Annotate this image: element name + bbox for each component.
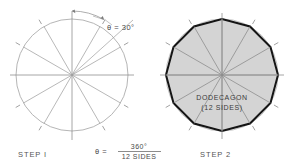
polygon-name-label: DODECAGON bbox=[196, 94, 247, 101]
tick-150deg bbox=[16, 43, 20, 46]
tick-330deg bbox=[124, 105, 128, 108]
vtick-240deg bbox=[189, 126, 192, 130]
radius-300deg bbox=[72, 75, 100, 124]
radius-60deg bbox=[72, 27, 100, 76]
theta-value-label: θ = 30° bbox=[107, 23, 135, 32]
radius-30deg bbox=[72, 47, 121, 75]
radius-210deg bbox=[24, 75, 73, 103]
angle-arrow-start bbox=[72, 10, 75, 14]
tick-300deg bbox=[103, 126, 106, 130]
tick-240deg bbox=[39, 126, 42, 130]
vtick-300deg bbox=[253, 126, 256, 130]
tick-30deg bbox=[124, 43, 128, 46]
vtick-210deg bbox=[166, 105, 170, 108]
vtick-330deg bbox=[274, 105, 278, 108]
step1-group: θ = 30° θ = 360° 12 SIDES STEP I bbox=[10, 10, 161, 160]
figure-canvas: θ = 30° θ = 360° 12 SIDES STEP I bbox=[0, 0, 298, 168]
step2-caption: STEP 2 bbox=[200, 150, 231, 159]
theta-formula: θ = 360° 12 SIDES bbox=[95, 143, 161, 160]
formula-lhs: θ = bbox=[95, 147, 107, 156]
polygon-sides-label: (12 SIDES) bbox=[201, 104, 242, 112]
tick-60deg bbox=[103, 20, 106, 24]
tick-210deg bbox=[16, 105, 20, 108]
step2-group: DODECAGON (12 SIDES) STEP 2 bbox=[160, 13, 284, 159]
vtick-60deg bbox=[253, 20, 256, 24]
formula-denominator: 12 SIDES bbox=[122, 153, 157, 160]
geometry-figure: θ = 30° θ = 360° 12 SIDES STEP I bbox=[0, 0, 298, 168]
radius-240deg bbox=[44, 75, 72, 124]
tick-120deg bbox=[39, 20, 42, 24]
vtick-150deg bbox=[166, 43, 170, 46]
radius-330deg bbox=[72, 75, 121, 103]
vtick-30deg bbox=[274, 43, 278, 46]
step1-caption: STEP I bbox=[18, 150, 47, 159]
vtick-120deg bbox=[189, 20, 192, 24]
radius-120deg bbox=[44, 27, 72, 76]
formula-numerator: 360° bbox=[131, 143, 147, 150]
radius-150deg bbox=[24, 47, 73, 75]
